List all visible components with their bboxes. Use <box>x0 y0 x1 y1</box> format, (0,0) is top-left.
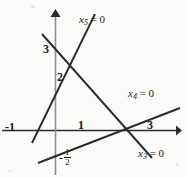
label-x5-rhs: 0 <box>100 13 106 25</box>
x-tick-three: 3 <box>147 119 153 131</box>
label-x4-op: = <box>140 87 146 99</box>
x-tick-minus-one: -1 <box>5 121 15 133</box>
scan-speck <box>8 170 11 172</box>
y-tick-two: 2 <box>57 71 63 83</box>
y-tick-three: 3 <box>43 43 49 55</box>
fraction-denominator: 2 <box>64 157 71 167</box>
fraction-numerator: 1 <box>64 148 71 157</box>
x-axis <box>2 126 182 136</box>
label-x4-sub: 4 <box>133 92 137 101</box>
y-tick-minus-one-half: - 1 2 <box>59 148 71 167</box>
line-x5 <box>32 14 95 143</box>
label-x5-op: = <box>91 13 97 25</box>
label-x4-rhs: 0 <box>149 87 155 99</box>
x-tick-one: 1 <box>78 119 84 131</box>
figure-canvas: -1 1 3 3 2 - 1 2 x5 = 0 x4 = 0 x3 = 0 <box>0 0 186 177</box>
label-x3-sub: 3 <box>143 152 147 161</box>
scan-speck <box>31 5 35 8</box>
label-x3-rhs: 0 <box>159 147 165 159</box>
fraction-sign: - <box>59 152 63 164</box>
label-x4-equals-zero: x4 = 0 <box>128 88 154 101</box>
label-x5-sub: 5 <box>84 18 88 27</box>
label-x5-equals-zero: x5 = 0 <box>79 14 105 27</box>
fraction-stack: 1 2 <box>64 148 71 167</box>
label-x3-op: = <box>150 147 156 159</box>
label-x3-equals-zero: x3 = 0 <box>138 148 164 161</box>
scan-speck <box>176 163 179 166</box>
